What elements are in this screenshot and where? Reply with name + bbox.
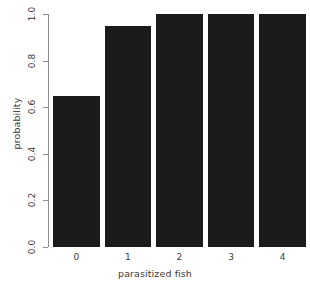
- y-tick-label-text: 0.4: [27, 147, 37, 161]
- bar: [105, 26, 152, 247]
- y-tick-label-text: 0.2: [27, 193, 37, 207]
- y-tick-label: 0.0: [22, 240, 42, 254]
- y-tick-label: 1.0: [22, 7, 42, 21]
- y-axis-title-label: probability: [12, 98, 23, 150]
- y-tick-label-text: 0.0: [27, 240, 37, 254]
- x-tick-label: 3: [208, 250, 255, 264]
- plot-area: [48, 14, 306, 247]
- y-tick-label-text: 0.6: [27, 100, 37, 114]
- x-tick-label: 4: [259, 250, 306, 264]
- y-tick-label: 0.6: [22, 100, 42, 114]
- x-tick-label: 1: [105, 250, 152, 264]
- y-tick-label-text: 1.0: [27, 7, 37, 21]
- bar: [156, 14, 203, 247]
- bar: [259, 14, 306, 247]
- y-tick-label-text: 0.8: [27, 53, 37, 67]
- x-tick-label: 2: [156, 250, 203, 264]
- y-tick-label: 0.4: [22, 147, 42, 161]
- y-axis-title: probability: [8, 0, 26, 247]
- bar-chart: probability 0.00.20.40.60.81.0 01234 par…: [0, 0, 310, 293]
- bar: [208, 14, 255, 247]
- bar: [53, 96, 100, 247]
- y-tick-mark: [43, 247, 48, 248]
- x-axis-title: parasitized fish: [0, 268, 310, 279]
- y-tick-label: 0.2: [22, 193, 42, 207]
- y-tick-label: 0.8: [22, 54, 42, 68]
- x-tick-label: 0: [53, 250, 100, 264]
